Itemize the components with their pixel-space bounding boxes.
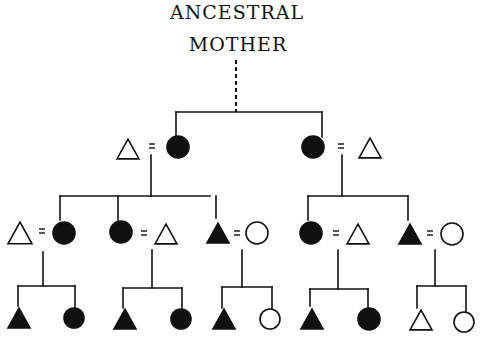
filled-male-triangle-icon	[114, 309, 136, 329]
open-female-circle-icon	[454, 312, 474, 332]
filled-female-circle-icon	[64, 308, 84, 328]
filled-female-circle-icon	[167, 136, 189, 158]
filled-female-circle-icon	[171, 309, 191, 329]
marriage-equals-icon	[149, 144, 155, 148]
open-male-triangle-icon	[155, 224, 177, 244]
marriage-equals-icon	[141, 231, 147, 235]
matrilineage-chart	[0, 0, 480, 339]
filled-male-triangle-icon	[8, 308, 30, 328]
marriage-equals-icon	[234, 231, 240, 235]
open-female-circle-icon	[441, 223, 463, 245]
open-male-triangle-icon	[347, 224, 369, 244]
filled-female-circle-icon	[53, 222, 75, 244]
open-male-triangle-icon	[117, 139, 139, 159]
filled-female-circle-icon	[302, 136, 324, 158]
filled-male-triangle-icon	[207, 223, 229, 243]
filled-male-triangle-icon	[213, 309, 235, 329]
filled-female-circle-icon	[358, 308, 380, 330]
kinship-lines	[18, 112, 466, 312]
filled-male-triangle-icon	[399, 224, 421, 244]
marriage-equals-icon	[333, 231, 339, 235]
filled-female-circle-icon	[300, 222, 322, 244]
marriage-equals-icon	[338, 144, 344, 148]
open-female-circle-icon	[246, 222, 268, 244]
kinship-diagram: ANCESTRAL MOTHER	[0, 0, 480, 339]
filled-female-circle-icon	[110, 221, 132, 243]
marriage-equals-icon	[427, 231, 433, 235]
filled-male-triangle-icon	[301, 309, 323, 329]
marriage-equals-icon	[39, 229, 45, 233]
open-male-triangle-icon	[8, 222, 32, 244]
people	[8, 136, 474, 332]
open-male-triangle-icon	[359, 138, 381, 158]
open-male-triangle-icon	[410, 310, 432, 330]
open-female-circle-icon	[260, 309, 280, 329]
